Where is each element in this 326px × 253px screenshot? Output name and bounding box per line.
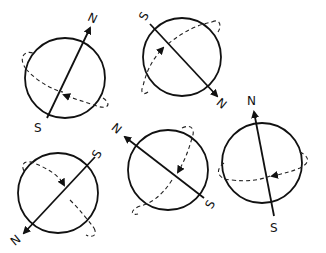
rotation-path-back <box>86 228 95 236</box>
sphere-4: N S <box>109 120 219 214</box>
sphere-outline <box>222 123 302 203</box>
north-label: N <box>8 232 24 248</box>
north-label: N <box>85 10 99 26</box>
rotation-path-back <box>212 21 220 32</box>
rotation-axis-arrow <box>254 112 274 216</box>
rotation-axis-arrow <box>24 157 95 233</box>
sphere-1: N S <box>22 10 108 135</box>
north-label: N <box>109 120 125 136</box>
spinning-spheres-diagram: N S S N S N N S N S <box>0 0 326 253</box>
rotation-axis-arrow <box>125 137 204 198</box>
south-label: S <box>136 9 152 23</box>
sphere-3: S N <box>8 147 105 248</box>
rotation-path-back <box>132 206 140 214</box>
rotation-path-front <box>26 69 63 92</box>
sphere-2: S N <box>136 9 230 112</box>
sphere-5: N S <box>218 94 307 235</box>
sphere-outline <box>25 38 105 118</box>
south-label: S <box>270 221 278 235</box>
sphere-outline <box>18 153 98 233</box>
rotation-path-front <box>232 176 270 181</box>
rotation-axis-arrow <box>47 28 90 118</box>
rotation-arrow <box>64 95 108 107</box>
rotation-path-front <box>70 200 94 228</box>
south-label: S <box>89 147 105 161</box>
north-label: N <box>247 94 256 108</box>
south-label: S <box>202 198 218 212</box>
south-label: S <box>34 121 42 135</box>
rotation-axis-arrow <box>150 24 217 96</box>
north-label: N <box>214 95 230 111</box>
